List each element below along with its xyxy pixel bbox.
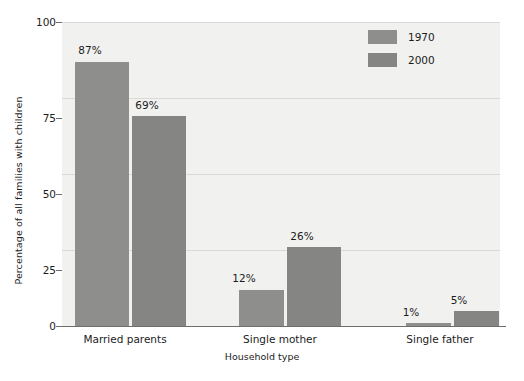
legend-swatch-2000	[368, 53, 397, 67]
plot-area: 1970 2000	[62, 22, 500, 326]
bar-value-single-father-2000: 5%	[431, 295, 487, 306]
legend-label-2000: 2000	[408, 54, 435, 66]
gridline-100	[62, 22, 500, 23]
x-axis-line	[56, 326, 506, 327]
bar-value-single-father-1970: 1%	[383, 307, 439, 318]
bar-single-father-2000	[454, 311, 499, 326]
legend-swatch-1970	[368, 30, 397, 44]
x-axis-title: Household type	[0, 351, 524, 362]
bar-single-mother-1970	[239, 290, 284, 327]
y-tick-label-50: 50	[22, 189, 56, 200]
y-tick-label-100: 100	[22, 17, 56, 28]
x-category-label-married-parents: Married parents	[35, 333, 215, 345]
bar-value-single-mother-2000: 26%	[269, 231, 335, 242]
y-tick-label-0: 0	[22, 321, 56, 332]
y-tick-label-25: 25	[22, 265, 56, 276]
bar-value-single-mother-1970: 12%	[216, 273, 272, 284]
bar-chart: Percentage of all families with children…	[0, 0, 524, 381]
legend-item-2000: 2000	[368, 53, 435, 67]
y-axis-tick-labels: 100 75 50 25 0	[22, 0, 56, 381]
legend: 1970 2000	[368, 30, 435, 76]
bar-single-mother-2000	[287, 247, 341, 326]
x-category-label-single-father: Single father	[365, 333, 515, 345]
bar-value-married-parents-1970: 87%	[57, 45, 123, 56]
bar-married-parents-2000	[132, 116, 186, 326]
x-category-label-single-mother: Single mother	[205, 333, 355, 345]
y-tick-label-75: 75	[22, 113, 56, 124]
bar-value-married-parents-2000: 69%	[114, 100, 180, 111]
legend-item-1970: 1970	[368, 30, 435, 44]
legend-label-1970: 1970	[408, 31, 435, 43]
